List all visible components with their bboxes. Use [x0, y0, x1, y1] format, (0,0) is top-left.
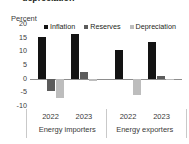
y-axis-tick-label: 5 [11, 61, 27, 69]
y-axis-tick-label: 10 [11, 47, 27, 55]
x-axis-group-label: Energy importers [39, 125, 96, 134]
bar-depreciation-2023-exporters [166, 79, 174, 80]
category-separator [106, 109, 107, 138]
bar-depreciation-2023-importers [89, 79, 97, 81]
chart-figure: depreciation Percent Inflation Reserves … [0, 0, 189, 144]
y-axis-tick-label: -10 [11, 102, 27, 110]
bar-inflation-2022-exporters [115, 50, 123, 78]
category-separator [26, 109, 27, 138]
x-axis-year-label: 2023 [153, 112, 170, 121]
bar-depreciation-2022-exporters [133, 79, 141, 96]
y-axis-tick-label: 15 [11, 34, 27, 42]
bar-inflation-2023-importers [71, 34, 79, 79]
bar-inflation-2023-exporters [148, 42, 156, 78]
bar-reserves-2022-importers [47, 79, 55, 91]
x-axis-year-label: 2022 [120, 112, 137, 121]
y-axis-tick-label: 20 [11, 20, 27, 28]
x-axis-group-label: Energy exporters [116, 125, 173, 134]
chart-title: depreciation [22, 0, 182, 3]
bar-reserves-2023-exporters [157, 76, 165, 79]
plot-area: 20151050-5-10 [30, 24, 182, 106]
category-separator [186, 109, 187, 138]
y-axis-tick-label: -5 [11, 88, 27, 96]
bar-reserves-2023-importers [80, 72, 88, 79]
y-axis-tick-label: 0 [11, 75, 27, 83]
bar-depreciation-2022-importers [56, 79, 64, 98]
bar-inflation-2022-importers [38, 37, 46, 79]
x-axis-year-label: 2023 [76, 112, 93, 121]
x-axis-year-label: 2022 [42, 112, 59, 121]
